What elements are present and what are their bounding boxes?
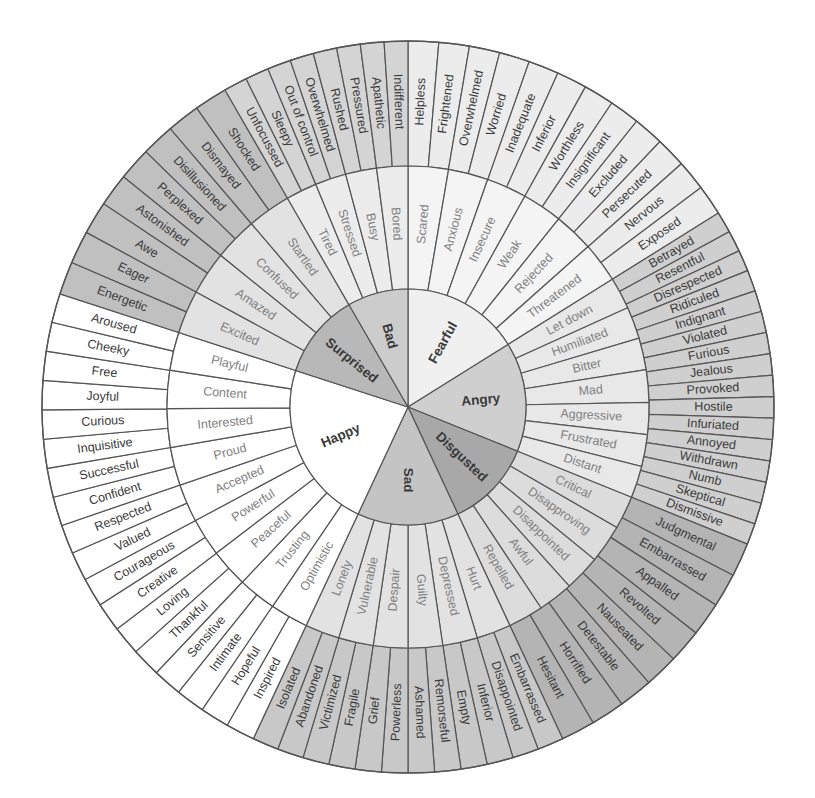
outer-feeling-label: Joyful (86, 389, 119, 404)
feelings-wheel-svg: HelplessFrightenedOverwhelmedWorriedInad… (0, 0, 815, 798)
feelings-wheel: HelplessFrightenedOverwhelmedWorriedInad… (0, 0, 815, 798)
outer-feeling-label: Powerless (388, 683, 404, 741)
outer-feeling-label: Grief (366, 696, 383, 725)
outer-feeling-label: Helpless (412, 77, 428, 125)
outer-feeling-label: Free (91, 363, 118, 380)
outer-feeling-label: Ashamed (412, 686, 428, 739)
middle-feeling-label: Guilty (414, 574, 430, 608)
middle-feeling-label: Aggressive (560, 407, 622, 424)
outer-feeling-label: Hostile (694, 400, 732, 414)
middle-feeling-label: Mad (578, 382, 603, 398)
core-feeling-label: Sad (401, 468, 416, 493)
middle-feeling-label: Bored (389, 207, 405, 241)
outer-feeling-label: Indifferent (391, 74, 407, 130)
outer-feeling-label: Curious (81, 413, 125, 429)
